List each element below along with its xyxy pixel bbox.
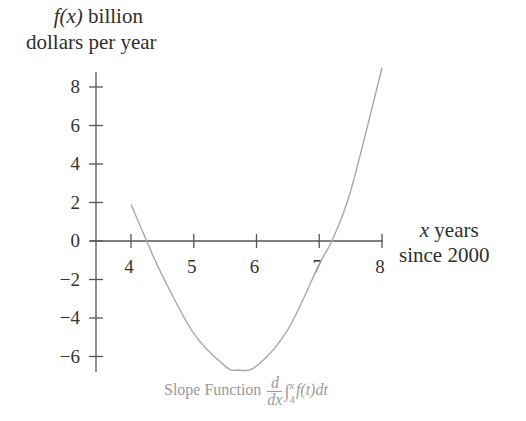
y-tick-label: 2 — [71, 192, 81, 213]
function-curve — [131, 68, 382, 371]
y-tick-label: 8 — [71, 76, 81, 97]
derivative-fraction: ddx — [267, 375, 282, 408]
y-tick-label: 4 — [71, 153, 81, 174]
chart-caption: Slope Function ddx∫x4f(t)dt — [164, 375, 328, 408]
x-tick-label: 6 — [250, 256, 260, 277]
integral-limits: x4 — [289, 378, 295, 406]
fraction-denominator: dx — [267, 392, 282, 408]
integrand: f(t)dt — [296, 381, 328, 398]
x-tick-label: 4 — [124, 256, 134, 277]
y-tick-label: 6 — [71, 115, 81, 136]
fraction-numerator: d — [267, 375, 282, 392]
y-tick-label: −6 — [60, 346, 80, 367]
y-tick-label: 0 — [71, 230, 81, 251]
upper-limit: x — [289, 378, 295, 392]
x-tick-label: 5 — [187, 256, 197, 277]
x-tick-label: 8 — [375, 256, 385, 277]
chart-plot: 86420−2−4−6 45678 — [0, 0, 526, 421]
lower-limit: 4 — [289, 392, 295, 406]
axes — [90, 72, 383, 372]
y-tick-label: −4 — [60, 307, 81, 328]
y-tick-label: −2 — [60, 269, 80, 290]
caption-prefix: Slope Function — [164, 381, 265, 398]
